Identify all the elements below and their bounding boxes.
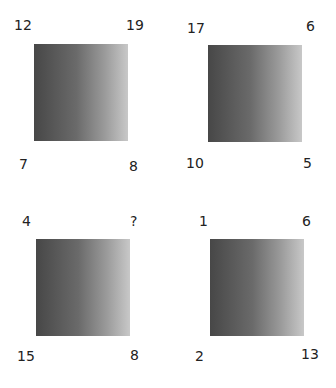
panel-2-top-left-number: 17 [187, 20, 205, 36]
panel-3-bottom-right-number: 8 [130, 347, 139, 363]
panel-2-gradient-square [208, 45, 302, 142]
panel-4-top-left-number: 1 [199, 213, 208, 229]
panel-4-bottom-right-number: 13 [301, 346, 319, 362]
panel-1-top-left-number: 12 [14, 17, 32, 33]
panel-1-bottom-right-number: 8 [129, 158, 138, 174]
panel-2-top-right-number: 6 [306, 18, 315, 34]
panel-4-bottom-left-number: 2 [195, 348, 204, 364]
panel-3-top-left-number: 4 [22, 213, 31, 229]
panel-3-top-right-number: ? [130, 213, 137, 229]
panel-1-top-right-number: 19 [126, 17, 144, 33]
panel-4-gradient-square [210, 239, 304, 336]
panel-3-gradient-square [36, 239, 130, 336]
panel-3-bottom-left-number: 15 [17, 348, 35, 364]
panel-1-gradient-square [34, 44, 128, 141]
panel-2-bottom-left-number: 10 [186, 155, 204, 171]
panel-1-bottom-left-number: 7 [19, 156, 28, 172]
panel-4-top-right-number: 6 [302, 213, 311, 229]
panel-2-bottom-right-number: 5 [303, 155, 312, 171]
